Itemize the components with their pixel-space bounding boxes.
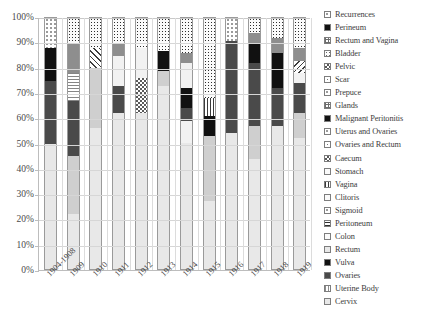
legend-label: Prepuce (335, 88, 361, 97)
legend-swatch-icon (324, 259, 331, 266)
legend-label: Rectum (335, 245, 360, 254)
bar-segment (45, 144, 56, 270)
legend-swatch-icon (324, 246, 331, 253)
legend-item[interactable]: Cervix (324, 295, 423, 308)
legend-item[interactable]: Vagina (324, 178, 423, 191)
bar-segment (68, 18, 79, 43)
bar-segment (272, 53, 283, 88)
legend-swatch-icon (324, 24, 331, 31)
bar-segment (68, 101, 79, 156)
y-axis-tick (35, 119, 39, 120)
bar-segment (249, 33, 260, 43)
bar-segment (181, 121, 192, 144)
y-axis-tick-label: 50% (17, 140, 34, 150)
bar-segment (249, 126, 260, 159)
y-axis-tick (35, 246, 39, 247)
legend-item[interactable]: Uterine Body (324, 282, 423, 295)
y-axis-tick-label: 30% (17, 190, 34, 200)
bar-segment (136, 48, 147, 78)
legend-item[interactable]: Ovaries and Rectum (324, 138, 423, 151)
y-axis-tick-label: 70% (17, 89, 34, 99)
legend-swatch-icon (324, 194, 331, 201)
category-divider (175, 18, 176, 270)
legend-item[interactable]: Caecum (324, 152, 423, 165)
legend-label: Rectum and Vagina (335, 36, 398, 45)
y-axis-tick (35, 195, 39, 196)
legend-item[interactable]: Clitoris (324, 191, 423, 204)
stacked-bar-chart: 0%10%20%30%40%50%60%70%80%90%100% 1904-1… (0, 0, 423, 327)
stacked-bar[interactable] (271, 17, 284, 270)
bar-segment (204, 136, 215, 201)
stacked-bar[interactable] (135, 17, 148, 270)
legend-item[interactable]: Perineum (324, 21, 423, 34)
y-axis-tick-label: 20% (17, 216, 34, 226)
bar-segment (272, 38, 283, 53)
bar-segment (272, 18, 283, 38)
bar-segment (113, 43, 124, 56)
bar-segment (113, 86, 124, 114)
category-divider (130, 18, 131, 270)
legend-item[interactable]: Rectum and Vagina (324, 34, 423, 47)
legend-label: Perineum (335, 23, 366, 32)
category-divider (243, 18, 244, 270)
legend-item[interactable]: Scar (324, 73, 423, 86)
legend-swatch-icon (324, 11, 331, 18)
category-divider (107, 18, 108, 270)
legend-item[interactable]: Recurrences (324, 8, 423, 21)
bar-segment (294, 138, 305, 269)
bar-segment (226, 18, 237, 41)
legend-item[interactable]: Pelvic (324, 60, 423, 73)
stacked-bar[interactable] (203, 17, 216, 270)
legend-item[interactable]: Rectum (324, 243, 423, 256)
stacked-bar[interactable] (44, 17, 57, 270)
y-axis-tick-label: 100% (12, 13, 34, 23)
category-divider (84, 18, 85, 270)
bar-segment (294, 113, 305, 138)
legend-item[interactable]: Bladder (324, 47, 423, 60)
bar-segment (294, 83, 305, 113)
legend-swatch-icon (324, 233, 331, 240)
x-axis-labels: 1904-19081909191019111912191319141915191… (38, 272, 310, 324)
legend-item[interactable]: Malignant Peritonitis (324, 112, 423, 125)
legend-swatch-icon (324, 63, 331, 70)
bar-segment (68, 73, 79, 101)
bar-segment (181, 88, 192, 108)
legend-label: Scar (335, 75, 349, 84)
legend-item[interactable]: Peritoneum (324, 217, 423, 230)
y-axis-tick-label: 60% (17, 114, 34, 124)
bar-segment (272, 126, 283, 269)
y-axis-labels: 0%10%20%30%40%50%60%70%80%90%100% (0, 18, 36, 271)
legend-item[interactable]: Glands (324, 99, 423, 112)
legend-item[interactable]: Sigmoid (324, 204, 423, 217)
legend-label: Vagina (335, 180, 357, 189)
stacked-bar[interactable] (89, 17, 102, 270)
legend-swatch-icon (324, 220, 331, 227)
stacked-bar[interactable] (67, 17, 80, 270)
bar-segment (158, 18, 169, 51)
bar-segment (90, 48, 101, 68)
stacked-bar[interactable] (157, 17, 170, 270)
legend-item[interactable]: Ovaries (324, 269, 423, 282)
bar-segment (45, 48, 56, 81)
legend-label: Ovaries and Rectum (335, 140, 401, 149)
y-axis-tick (35, 69, 39, 70)
bar-segment (204, 201, 215, 269)
legend-swatch-icon (324, 128, 331, 135)
stacked-bar[interactable] (225, 17, 238, 270)
legend-item[interactable]: Stomach (324, 165, 423, 178)
stacked-bar[interactable] (180, 17, 193, 270)
legend-swatch-icon (324, 181, 331, 188)
legend-swatch-icon (324, 141, 331, 148)
stacked-bar[interactable] (248, 17, 261, 270)
bar-segment (249, 43, 260, 63)
legend-label: Malignant Peritonitis (335, 114, 403, 123)
legend-item[interactable]: Uterus and Ovaries (324, 125, 423, 138)
legend-label: Glands (335, 101, 358, 110)
bar-segment (226, 133, 237, 269)
stacked-bar[interactable] (293, 17, 306, 270)
bar-segment (294, 61, 305, 74)
legend-item[interactable]: Colon (324, 230, 423, 243)
legend-item[interactable]: Prepuce (324, 86, 423, 99)
legend-item[interactable]: Vulva (324, 256, 423, 269)
stacked-bar[interactable] (112, 17, 125, 270)
